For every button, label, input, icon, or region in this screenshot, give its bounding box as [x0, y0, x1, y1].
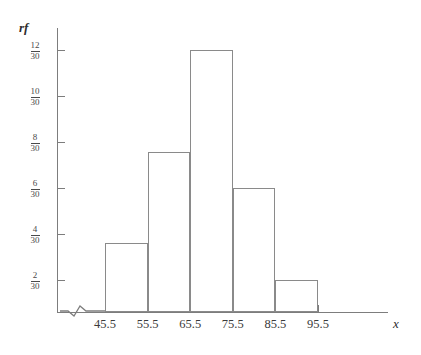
y-tick-label-6-30: 6 30	[18, 179, 52, 200]
y-tick-6-30	[58, 188, 65, 189]
fraction-numerator: 8	[31, 133, 40, 142]
y-tick-12-30	[58, 50, 65, 51]
histogram-bar	[233, 188, 276, 313]
y-tick-label-4-30: 4 30	[18, 225, 52, 246]
y-tick-label-10-30: 10 30	[18, 87, 52, 108]
y-tick-label-8-30: 8 30	[18, 133, 52, 154]
y-axis-title: rf	[19, 20, 28, 36]
histogram-bar	[190, 50, 233, 312]
axis-break-icon	[60, 299, 106, 317]
fraction-denominator: 30	[31, 98, 40, 107]
y-tick-2-30	[58, 280, 65, 281]
histogram-figure: rf x 2 30 4 30 6 30 8	[0, 0, 421, 355]
fraction-numerator: 2	[31, 271, 40, 280]
fraction-numerator: 10	[31, 87, 40, 96]
y-axis-line	[57, 28, 58, 313]
y-tick-label-12-30: 12 30	[18, 41, 52, 62]
x-tick-95-5	[318, 305, 319, 312]
fraction-denominator: 30	[31, 282, 40, 291]
y-tick-8-30	[58, 142, 65, 143]
fraction-denominator: 30	[31, 144, 40, 153]
histogram-bar	[275, 280, 318, 313]
y-tick-10-30	[58, 96, 65, 97]
fraction-denominator: 30	[31, 190, 40, 199]
fraction-denominator: 30	[31, 52, 40, 61]
x-tick-label-95-5: 95.5	[291, 317, 345, 332]
x-axis-title: x	[393, 316, 399, 332]
histogram-bar	[148, 152, 191, 313]
y-tick-label-2-30: 2 30	[18, 271, 52, 292]
fraction-denominator: 30	[31, 236, 40, 245]
y-tick-4-30	[58, 234, 65, 235]
fraction-numerator: 6	[31, 179, 40, 188]
fraction-numerator: 12	[31, 41, 40, 50]
histogram-bar	[105, 243, 148, 312]
fraction-numerator: 4	[31, 225, 40, 234]
